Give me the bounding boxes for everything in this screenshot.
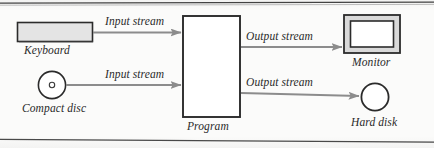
compact-disc-hub bbox=[49, 82, 54, 87]
compact-disc-label: Compact disc bbox=[22, 103, 86, 115]
figure-top-rule bbox=[0, 2, 434, 3]
edge-label-compact-disc-to-program: Input stream bbox=[105, 69, 164, 81]
edge-label-program-to-monitor: Output stream bbox=[246, 31, 313, 43]
diagram-figure: Keyboard Compact disc Program Monitor Ha… bbox=[0, 0, 434, 148]
edge-label-keyboard-to-program: Input stream bbox=[105, 16, 164, 28]
program-shape bbox=[183, 16, 240, 117]
monitor-screen bbox=[351, 21, 394, 47]
hard-disk-shape bbox=[361, 83, 388, 110]
program-label: Program bbox=[187, 121, 229, 133]
monitor-label: Monitor bbox=[352, 57, 390, 69]
hard-disk-label: Hard disk bbox=[351, 117, 397, 129]
keyboard-shape bbox=[18, 23, 93, 42]
figure-bottom-rule bbox=[0, 139, 434, 142]
arrow-program-to-hard-disk bbox=[241, 93, 359, 96]
figure-top-rule-shadow bbox=[0, 4, 434, 5]
keyboard-label: Keyboard bbox=[24, 45, 70, 57]
edge-label-program-to-hard-disk: Output stream bbox=[246, 77, 313, 89]
